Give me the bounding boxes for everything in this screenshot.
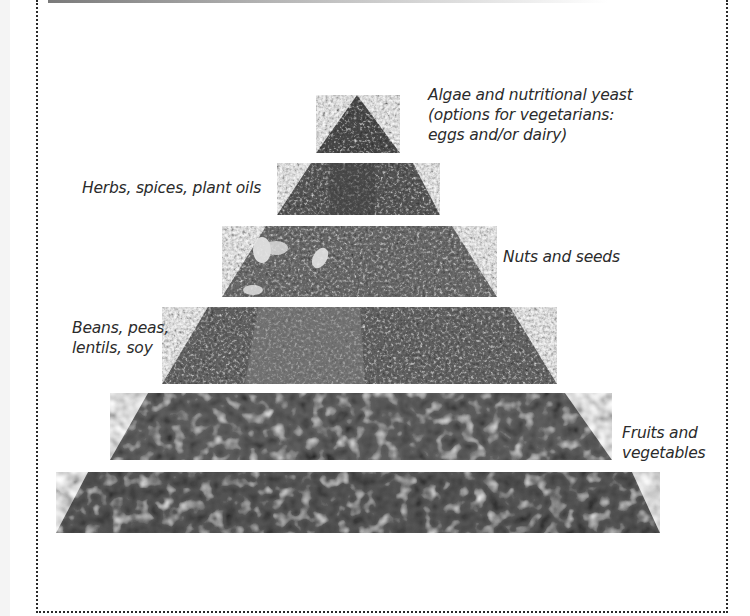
label-tier-2: Herbs, spices, plant oils — [82, 178, 261, 198]
food-pyramid — [0, 0, 750, 616]
label-line: Herbs, spices, plant oils — [82, 178, 261, 198]
tier-5-fruits-vegetables — [110, 393, 612, 460]
tier-6-leafy-greens — [56, 472, 660, 533]
label-line: Beans, peas, — [72, 318, 169, 338]
label-tier-1: Algae and nutritional yeast (options for… — [428, 85, 633, 145]
label-line: eggs and/or dairy) — [428, 125, 633, 145]
label-tier-4: Beans, peas, lentils, soy — [72, 318, 169, 358]
tier-3-nuts-seeds — [222, 226, 497, 297]
label-line: vegetables — [622, 443, 705, 463]
tier-1-algae-yeast — [316, 95, 400, 153]
label-line: (options for vegetarians: — [428, 105, 633, 125]
label-line: Algae and nutritional yeast — [428, 85, 633, 105]
label-line: lentils, soy — [72, 338, 169, 358]
label-tier-5: Fruits and vegetables — [622, 423, 705, 463]
label-tier-3: Nuts and seeds — [503, 247, 620, 267]
tier-4-legumes — [162, 307, 557, 384]
label-line: Fruits and — [622, 423, 705, 443]
label-line: Nuts and seeds — [503, 247, 620, 267]
tier-2-herbs-spices — [277, 163, 440, 215]
